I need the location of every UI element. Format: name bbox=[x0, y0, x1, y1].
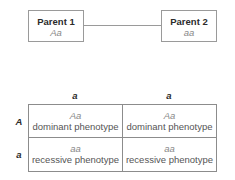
cell-genotype: aa bbox=[29, 143, 122, 154]
row-allele-1: A bbox=[12, 116, 26, 127]
punnett-cell: Aa dominant phenotype bbox=[29, 105, 123, 138]
cell-phenotype: recessive phenotype bbox=[29, 154, 122, 165]
cell-genotype: aa bbox=[123, 143, 216, 154]
parent-cross-connector bbox=[84, 25, 161, 26]
parent-1-genotype: Aa bbox=[29, 27, 83, 38]
parent-2-genotype: aa bbox=[162, 27, 216, 38]
parent-1-label: Parent 1 bbox=[29, 16, 83, 27]
row-allele-2: a bbox=[12, 149, 26, 160]
cell-phenotype: recessive phenotype bbox=[123, 154, 216, 165]
column-allele-1: a bbox=[28, 90, 122, 101]
punnett-square: Aa dominant phenotype Aa dominant phenot… bbox=[28, 104, 217, 172]
parent-1-box: Parent 1 Aa bbox=[28, 10, 84, 42]
cell-phenotype: dominant phenotype bbox=[29, 121, 122, 132]
parent-2-box: Parent 2 aa bbox=[161, 10, 217, 42]
punnett-cell: aa recessive phenotype bbox=[29, 138, 123, 171]
cell-genotype: Aa bbox=[123, 110, 216, 121]
punnett-cell: aa recessive phenotype bbox=[123, 138, 216, 171]
parent-2-label: Parent 2 bbox=[162, 16, 216, 27]
punnett-cell: Aa dominant phenotype bbox=[123, 105, 216, 138]
cell-phenotype: dominant phenotype bbox=[123, 121, 216, 132]
cell-genotype: Aa bbox=[29, 110, 122, 121]
column-allele-2: a bbox=[122, 90, 216, 101]
